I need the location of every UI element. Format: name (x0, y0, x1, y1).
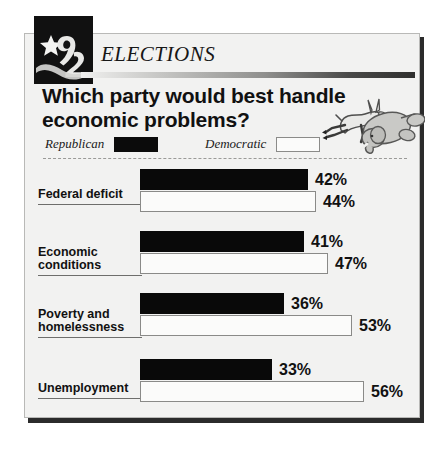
bar-group-democratic: 44% (140, 191, 355, 212)
table-row: Poverty and homelessness 36% 53% (25, 290, 421, 346)
legend-swatch-democratic (276, 137, 320, 152)
elections-infographic-panel: ELECTIONS Which party would best handle … (24, 33, 420, 418)
bar-republican (140, 169, 308, 190)
bar-value-democratic: 47% (335, 255, 367, 273)
bar-republican (140, 293, 284, 314)
bar-republican (140, 359, 272, 380)
row-bars-economic-conditions: 41% 47% (140, 228, 421, 284)
legend-label-democratic: Democratic (205, 136, 266, 152)
bar-democratic (140, 253, 328, 274)
legend-item-republican: Republican (45, 135, 158, 153)
bar-democratic (140, 381, 364, 402)
table-row: Economic conditions 41% 47% (25, 228, 421, 284)
row-label-unemployment: Unemployment (38, 382, 142, 399)
table-row: Federal deficit 42% 44% (25, 166, 421, 222)
bar-group-democratic: 47% (140, 253, 367, 274)
legend-item-democratic: Democratic (205, 135, 320, 153)
table-row: Unemployment 33% 56% (25, 356, 421, 412)
section-title: ELECTIONS (101, 42, 215, 67)
bar-group-democratic: 53% (140, 315, 391, 336)
masthead: ELECTIONS (25, 34, 421, 86)
mascots-artwork-icon (321, 94, 425, 160)
bar-group-republican: 36% (140, 293, 323, 314)
row-bars-federal-deficit: 42% 44% (140, 166, 421, 222)
bar-group-republican: 33% (140, 359, 311, 380)
bar-value-republican: 33% (279, 361, 311, 379)
bar-democratic (140, 191, 316, 212)
page-title: Which party would best handle economic p… (42, 84, 352, 132)
bar-group-republican: 42% (140, 169, 347, 190)
party-mascots-illustration (321, 94, 425, 160)
bar-value-democratic: 44% (323, 193, 355, 211)
bar-group-democratic: 56% (140, 381, 403, 402)
row-bars-poverty-and-homelessness: 36% 53% (140, 290, 421, 346)
row-label-poverty-and-homelessness: Poverty and homelessness (38, 308, 142, 338)
row-bars-unemployment: 33% 56% (140, 356, 421, 412)
bar-republican (140, 231, 304, 252)
bar-chart: Federal deficit 42% 44% Economic conditi… (25, 166, 421, 416)
bar-democratic (140, 315, 352, 336)
legend-label-republican: Republican (45, 136, 104, 152)
panel-shadow-bottom (28, 418, 424, 423)
bar-value-democratic: 56% (371, 383, 403, 401)
row-label-economic-conditions: Economic conditions (38, 246, 142, 276)
bar-group-republican: 41% (140, 231, 343, 252)
legend-swatch-republican (114, 137, 158, 152)
row-label-federal-deficit: Federal deficit (38, 188, 142, 205)
bar-value-republican: 36% (291, 295, 323, 313)
bar-value-republican: 41% (311, 233, 343, 251)
bar-value-democratic: 53% (359, 317, 391, 335)
masthead-rule (81, 72, 415, 78)
bar-value-republican: 42% (315, 171, 347, 189)
